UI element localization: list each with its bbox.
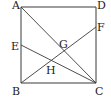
geometry-diagram: A D E F G H B C (0, 0, 111, 97)
label-e: E (11, 40, 19, 53)
label-b: B (12, 85, 20, 97)
label-c: C (95, 85, 103, 97)
label-d: D (97, 0, 106, 12)
label-f: F (97, 21, 105, 34)
label-g: G (59, 38, 68, 51)
label-h: H (46, 64, 56, 77)
point-labels: A D E F G H B C (11, 0, 106, 97)
segment-bf (21, 27, 96, 83)
label-a: A (11, 0, 21, 12)
